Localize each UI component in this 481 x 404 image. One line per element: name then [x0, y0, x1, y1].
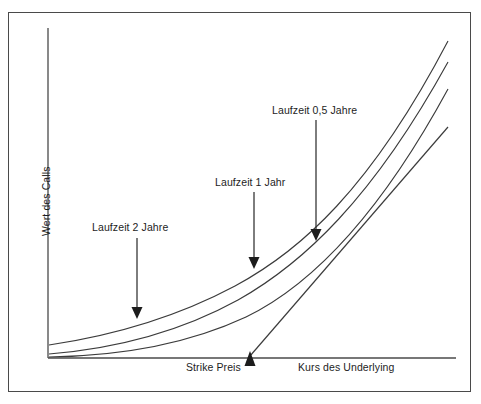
plot-area [0, 0, 481, 404]
curve-laufzeit-2-jahre [49, 41, 448, 345]
y-axis-label: Wert des Calls [41, 151, 52, 251]
annotation-label-laufzeit-05-jahre: Laufzeit 0,5 Jahre [272, 105, 357, 116]
line-innerer-wert [250, 127, 448, 356]
annotation-label-laufzeit-1-jahr: Laufzeit 1 Jahr [215, 177, 285, 188]
chart-figure: Laufzeit 2 Jahre Laufzeit 1 Jahr Laufzei… [0, 0, 481, 404]
x-axis-label: Kurs des Underlying [298, 362, 394, 373]
curve-laufzeit-1-jahr [49, 62, 448, 354]
annotation-label-laufzeit-2-jahre: Laufzeit 2 Jahre [92, 222, 168, 233]
x-axis-strike-price-label: Strike Preis [186, 362, 241, 373]
callout-arrow-laufzeit-1 [249, 192, 260, 269]
callout-arrow-laufzeit-2 [132, 238, 143, 319]
